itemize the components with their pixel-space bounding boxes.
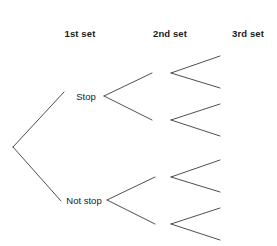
tree-branch-line <box>171 177 220 192</box>
column-header-col2: 2nd set <box>153 28 187 39</box>
tree-branch-line <box>13 147 61 201</box>
tree-branch-line <box>107 177 155 200</box>
branch-line-group <box>13 56 220 240</box>
tree-branch-line <box>171 73 220 88</box>
tree-branch-line <box>104 96 152 120</box>
column-header-col3: 3rd set <box>232 28 264 39</box>
probability-tree-diagram: 1st set2nd set3rd set StopNot stop <box>0 0 277 246</box>
tree-branch-line <box>171 224 220 240</box>
node-label-not-stop: Not stop <box>65 195 102 206</box>
tree-branch-line <box>104 73 152 96</box>
tree-branch-line <box>171 208 220 224</box>
tree-branch-line <box>107 200 155 224</box>
tree-branch-line <box>171 104 220 120</box>
tree-branch-line <box>171 160 220 177</box>
column-header-col1: 1st set <box>65 28 96 39</box>
tree-branch-line <box>171 120 220 136</box>
tree-branch-line <box>13 92 64 147</box>
tree-branch-line <box>171 56 220 73</box>
node-label-stop: Stop <box>75 91 97 102</box>
